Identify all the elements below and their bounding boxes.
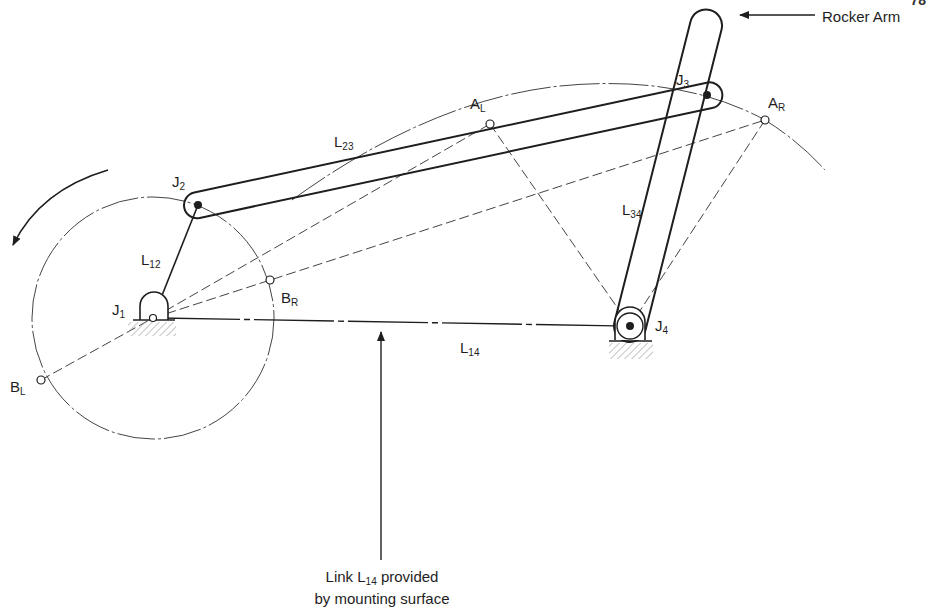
ground-link-L14 <box>160 318 622 326</box>
label-L14: L14 <box>460 340 479 358</box>
label-BL: BL <box>10 379 26 397</box>
label-BR: BR <box>281 290 298 308</box>
caption-line-2: by mounting surface <box>290 590 474 607</box>
line-AR-J4 <box>630 120 765 326</box>
pin-J3 <box>703 91 711 99</box>
caption-mounting-surface: Link L14 provided by mounting surface <box>290 568 474 607</box>
label-J2: J2 <box>172 174 185 192</box>
pin-J2 <box>194 201 202 209</box>
coupler-link-L23 <box>182 80 725 221</box>
caption-line-1: Link L14 provided <box>290 568 474 590</box>
label-AL: AL <box>470 96 486 114</box>
line-AL-J4 <box>490 124 630 326</box>
rotation-direction-arrow-icon <box>13 170 108 245</box>
label-L23: L23 <box>334 134 353 152</box>
rocker-arm-link <box>611 6 726 345</box>
label-J4: J4 <box>655 318 668 336</box>
point-BL <box>37 376 45 384</box>
ground-pivot-J1 <box>128 292 176 336</box>
label-rocker-arm: Rocker Arm <box>822 9 900 24</box>
page-corner-number: 78 <box>910 0 926 8</box>
label-J3: J3 <box>676 72 689 90</box>
label-L12: L12 <box>141 252 160 270</box>
point-AL <box>486 120 494 128</box>
label-AR: AR <box>768 95 785 113</box>
point-AR <box>761 116 769 124</box>
point-BR <box>266 276 274 284</box>
label-L34: L34 <box>622 202 641 220</box>
label-J1: J1 <box>112 302 125 320</box>
